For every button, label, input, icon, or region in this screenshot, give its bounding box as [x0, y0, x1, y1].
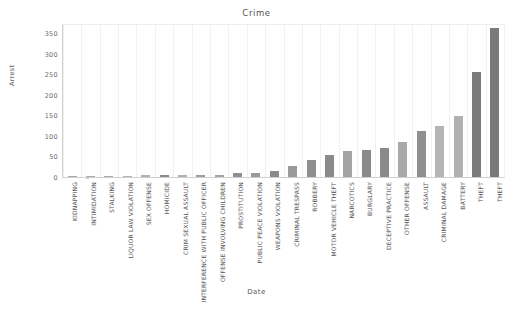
- bar-slot: [100, 25, 118, 177]
- y-axis-ticks: 350300250200150100500: [26, 24, 58, 178]
- bar-slot: [449, 25, 467, 177]
- x-tick-label: SEX OFFENSE: [145, 182, 152, 225]
- y-tick-label: 50: [30, 153, 58, 161]
- x-slot: PUBLIC PEACE VIOLATION: [247, 180, 265, 280]
- x-tick-label: CRIMINAL DAMAGE: [440, 182, 447, 242]
- x-tick-label: THEFT: [496, 182, 503, 202]
- x-slot: BATTERY: [450, 180, 468, 280]
- gridline: [504, 25, 505, 177]
- bar[interactable]: [472, 72, 481, 177]
- y-tick-label: 250: [30, 71, 58, 79]
- bar[interactable]: [325, 155, 334, 177]
- y-tick-mark: [86, 178, 89, 179]
- x-slot: BURGLARY: [357, 180, 375, 280]
- x-tick-label: DECEPTIVE PRACTICE: [385, 182, 392, 250]
- x-tick-label: INTERFERENCE WITH PUBLIC OFFICER: [200, 182, 207, 303]
- x-tick-label: CRIMINAL TRESPASS: [293, 182, 300, 247]
- bar-slot: [486, 25, 504, 177]
- bar-slot: [467, 25, 485, 177]
- bar-slot: [339, 25, 357, 177]
- x-tick-label: STALKING: [108, 182, 115, 213]
- bar[interactable]: [454, 116, 463, 177]
- x-slot: SEX OFFENSE: [136, 180, 154, 280]
- chart-title: Crime: [0, 8, 513, 18]
- x-tick-label: WEAPONS VIOLATION: [274, 182, 281, 250]
- bar-series: [63, 25, 504, 177]
- y-tick-label: 200: [30, 92, 58, 100]
- bar[interactable]: [196, 175, 205, 177]
- bar-slot: [118, 25, 136, 177]
- x-axis-ticklabels: KIDNAPPINGINTIMIDATIONSTALKINGLIQUOR LAW…: [62, 180, 505, 280]
- x-tick-label: CRIM SEXUAL ASSAULT: [182, 182, 189, 255]
- bar[interactable]: [362, 150, 371, 178]
- x-tick-label: KIDNAPPING: [71, 182, 78, 221]
- bar[interactable]: [435, 126, 444, 177]
- x-tick-label: BATTERY: [459, 182, 466, 210]
- bar[interactable]: [215, 175, 224, 177]
- bar[interactable]: [307, 160, 316, 177]
- bar[interactable]: [68, 176, 77, 177]
- x-slot: PROSTITUTION: [228, 180, 246, 280]
- x-slot: ROBBERY: [302, 180, 320, 280]
- x-slot: LIQUOR LAW VIOLATION: [117, 180, 135, 280]
- x-slot: INTERFERENCE WITH PUBLIC OFFICER: [191, 180, 209, 280]
- bar-slot: [394, 25, 412, 177]
- x-axis-label: Date: [0, 288, 513, 296]
- bar[interactable]: [123, 176, 132, 177]
- y-tick-label: 150: [30, 112, 58, 120]
- bar-slot: [431, 25, 449, 177]
- x-slot: CRIMINAL TRESPASS: [283, 180, 301, 280]
- bar-slot: [81, 25, 99, 177]
- bar[interactable]: [343, 151, 352, 177]
- bar-slot: [210, 25, 228, 177]
- x-slot: CRIMINAL DAMAGE: [431, 180, 449, 280]
- bar-slot: [375, 25, 393, 177]
- bar[interactable]: [233, 173, 242, 177]
- y-tick-label: 350: [30, 30, 58, 38]
- bar[interactable]: [104, 176, 113, 177]
- bar-slot: [284, 25, 302, 177]
- bar-slot: [155, 25, 173, 177]
- y-tick-label: 0: [30, 174, 58, 182]
- bar[interactable]: [417, 131, 426, 177]
- bar-slot: [265, 25, 283, 177]
- bar-slot: [320, 25, 338, 177]
- x-tick-label: ASSAULT: [422, 182, 429, 210]
- x-slot: OTHER OFFENSE: [394, 180, 412, 280]
- bar[interactable]: [86, 176, 95, 177]
- x-slot: WEAPONS VIOLATION: [265, 180, 283, 280]
- x-tick-label: PUBLIC PEACE VIOLATION: [256, 182, 263, 263]
- bar[interactable]: [141, 175, 150, 177]
- bar[interactable]: [160, 175, 169, 177]
- bar-slot: [173, 25, 191, 177]
- x-tick-label: OTHER OFFENSE: [403, 182, 410, 235]
- bar-slot: [247, 25, 265, 177]
- x-slot: DECEPTIVE PRACTICE: [376, 180, 394, 280]
- x-tick-label: INTIMIDATION: [90, 182, 97, 226]
- x-slot: NARCOTICS: [339, 180, 357, 280]
- bar[interactable]: [178, 175, 187, 177]
- x-slot: ASSAULT: [413, 180, 431, 280]
- bar-slot: [228, 25, 246, 177]
- x-slot: MOTOR VEHICLE THEFT: [320, 180, 338, 280]
- bar[interactable]: [490, 28, 499, 177]
- x-tick-label: THEFT: [477, 182, 484, 202]
- chart-figure: · · ·· Crime Arrest 35030025020015010050…: [0, 0, 513, 312]
- x-slot: STALKING: [99, 180, 117, 280]
- bar[interactable]: [398, 142, 407, 177]
- y-tick-label: 300: [30, 51, 58, 59]
- x-tick-label: MOTOR VEHICLE THEFT: [330, 182, 337, 257]
- bar-slot: [412, 25, 430, 177]
- x-slot: CRIM SEXUAL ASSAULT: [173, 180, 191, 280]
- bar[interactable]: [270, 171, 279, 177]
- bar[interactable]: [288, 166, 297, 177]
- x-tick-label: LIQUOR LAW VIOLATION: [127, 182, 134, 258]
- x-tick-label: BURGLARY: [366, 182, 373, 216]
- plot-area: [62, 24, 505, 178]
- bar[interactable]: [380, 148, 389, 177]
- x-tick-label: PROSTITUTION: [237, 182, 244, 229]
- bar-slot: [137, 25, 155, 177]
- clipped-header-text: · · ··: [105, 0, 365, 8]
- x-slot: THEFT: [468, 180, 486, 280]
- bar[interactable]: [251, 173, 260, 177]
